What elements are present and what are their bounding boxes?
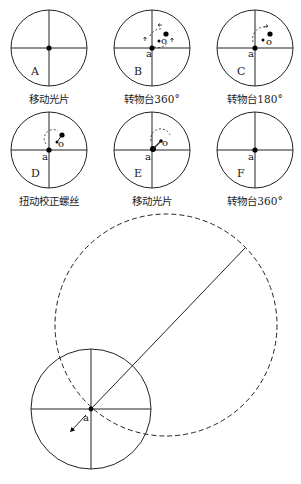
svg-text:o: o	[58, 138, 64, 149]
arrow-right-icon	[264, 25, 268, 28]
panel-f-letter: F	[237, 167, 245, 180]
panel-d-caption: 扭动校正螺丝	[19, 195, 79, 207]
panel-b: o a B 转物台360°	[114, 10, 190, 105]
panel-a-caption: 移动光片	[29, 93, 69, 105]
panel-c-caption: 转物台180°	[227, 93, 282, 105]
panel-a: A 移动光片	[11, 10, 87, 105]
panel-e: o a E 移动光片	[114, 112, 190, 207]
svg-text:a: a	[145, 151, 151, 162]
svg-text:a: a	[248, 151, 254, 162]
bottom-figure: a	[31, 214, 277, 469]
arrow-up-icon	[171, 38, 174, 42]
dashed-rotation-circle	[55, 214, 277, 436]
svg-text:o: o	[162, 137, 168, 148]
panel-c-letter: C	[237, 65, 245, 78]
svg-text:a: a	[146, 48, 152, 59]
panel-d: o a D 扭动校正螺丝	[11, 112, 87, 207]
panel-a-letter: A	[30, 65, 40, 78]
svg-text:a: a	[248, 48, 254, 59]
panel-e-caption: 移动光片	[132, 195, 172, 207]
svg-text:a: a	[42, 151, 48, 162]
panel-d-letter: D	[31, 167, 40, 180]
panel-b-letter: B	[134, 65, 142, 78]
svg-text:o: o	[161, 35, 167, 46]
arrow-up-icon	[144, 37, 147, 41]
svg-text:a: a	[83, 412, 89, 423]
diagram-canvas: A 移动光片 o a B 转物台360° o a C 转物台180°	[0, 0, 301, 484]
panel-b-caption: 转物台360°	[124, 93, 179, 105]
panel-c: o a C 转物台180°	[217, 10, 293, 105]
panel-f-caption: 转物台360°	[227, 195, 282, 207]
arrow-left-icon	[158, 24, 162, 27]
panel-e-letter: E	[134, 167, 142, 180]
radius-line	[91, 248, 245, 409]
svg-text:o: o	[266, 36, 272, 47]
panel-f: a F 转物台360°	[217, 112, 293, 207]
